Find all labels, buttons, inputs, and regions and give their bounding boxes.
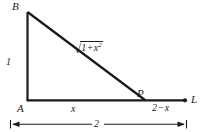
- geometry-figure: B A P L 1 √1+x2 x 2−x 2: [0, 0, 201, 132]
- dimension-arrowhead-right: [178, 121, 185, 127]
- radicand-exponent: 2: [98, 41, 102, 49]
- base-left-length-label: x: [71, 104, 75, 114]
- radicand-group: 1+x2: [80, 41, 103, 53]
- dimension-arrowhead-left: [12, 121, 19, 127]
- vertex-label-b: B: [12, 1, 19, 12]
- total-dimension-label: 2: [94, 119, 99, 129]
- endpoint-dot-l: [183, 98, 187, 102]
- radicand-plus-operator: +: [86, 42, 94, 53]
- vertex-label-p: P: [137, 88, 144, 99]
- base-right-length-label: 2−x: [152, 103, 169, 113]
- figure-canvas: [0, 0, 201, 132]
- segment-hypotenuse-bp: [28, 12, 146, 100]
- hypotenuse-length-label: √1+x2: [74, 41, 103, 54]
- leg-length-label: 1: [6, 57, 11, 67]
- vertex-label-a: A: [17, 103, 24, 114]
- vertex-label-l: L: [191, 94, 197, 105]
- base-right-minus-operator: −: [157, 102, 165, 113]
- base-right-variable: x: [165, 102, 169, 113]
